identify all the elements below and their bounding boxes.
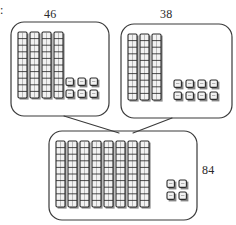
tens-rod — [152, 34, 163, 102]
block-box-addend-one — [11, 22, 109, 116]
unit-cube — [210, 80, 219, 89]
unit-cube — [167, 192, 176, 201]
tens-rod — [80, 141, 91, 209]
unit-cube — [198, 92, 207, 101]
tens-rod — [30, 32, 41, 100]
unit-cube — [78, 78, 87, 87]
tens-rod — [128, 34, 139, 102]
block-box-sum — [49, 131, 197, 220]
unit-cube — [179, 192, 188, 201]
tens-rod — [68, 141, 79, 209]
ones-group-sum — [167, 180, 188, 201]
base-ten-blocks-diagram — [0, 0, 236, 225]
unit-cube — [78, 90, 87, 99]
unit-cube — [174, 80, 183, 89]
tens-rod — [104, 141, 115, 209]
unit-cube — [198, 80, 207, 89]
tens-rod — [140, 34, 151, 102]
tens-rod — [116, 141, 127, 209]
diagram-canvas: : 46 38 84 — [0, 0, 236, 225]
tens-rod — [54, 32, 65, 100]
unit-cube — [90, 90, 99, 99]
unit-cube — [186, 92, 195, 101]
ones-group-addend-one — [66, 78, 99, 99]
label-addend-two: 38 — [160, 8, 172, 20]
unit-cube — [179, 180, 188, 189]
unit-cube — [66, 90, 75, 99]
tens-rod — [128, 141, 139, 209]
tens-rod — [140, 141, 151, 209]
tens-rod — [42, 32, 53, 100]
tens-rod — [18, 32, 29, 100]
tens-rod — [92, 141, 103, 209]
tens-group-addend-one — [18, 32, 65, 100]
unit-cube — [174, 92, 183, 101]
label-sum: 84 — [202, 164, 214, 176]
ones-group-addend-two — [174, 80, 219, 101]
tens-group-addend-two — [128, 34, 163, 102]
label-addend-one: 46 — [44, 8, 56, 20]
unit-cube — [90, 78, 99, 87]
tens-group-sum — [56, 141, 151, 209]
boxes-layer — [11, 22, 232, 220]
block-box-addend-two — [121, 24, 232, 118]
unit-cube — [210, 92, 219, 101]
unit-cube — [167, 180, 176, 189]
unit-cube — [66, 78, 75, 87]
unit-cube — [186, 80, 195, 89]
tens-rod — [56, 141, 67, 209]
